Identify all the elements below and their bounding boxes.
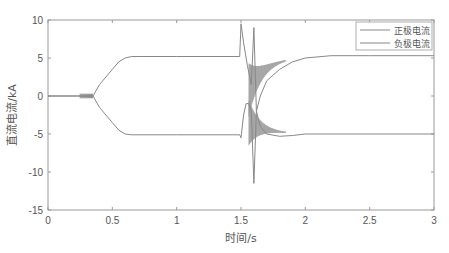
- legend: 正极电流 负极电流: [356, 22, 432, 50]
- x-tick-label: 1.5: [234, 215, 248, 226]
- x-tick-label: 3: [431, 215, 437, 226]
- y-tick-label: 0: [37, 91, 43, 102]
- legend-label-positive: 正极电流: [394, 25, 430, 36]
- y-tick-label: 5: [37, 53, 43, 64]
- y-tick-label: -5: [34, 129, 43, 140]
- y-tick-label: -10: [29, 167, 44, 178]
- x-axis-label: 时间/s: [225, 232, 257, 245]
- line-chart: 00.511.522.53 1050-5-10-15 时间/s 直流电流/kA …: [0, 0, 449, 253]
- legend-label-negative: 负极电流: [394, 38, 430, 49]
- y-tick-label: 10: [32, 15, 44, 26]
- y-axis-label: 直流电流/kA: [5, 84, 19, 146]
- x-tick-label: 0: [45, 215, 51, 226]
- x-tick-label: 2.5: [363, 215, 377, 226]
- x-tick-label: 1: [174, 215, 180, 226]
- y-tick-label: -15: [29, 205, 44, 216]
- x-tick-label: 2: [303, 215, 309, 226]
- x-tick-label: 0.5: [105, 215, 119, 226]
